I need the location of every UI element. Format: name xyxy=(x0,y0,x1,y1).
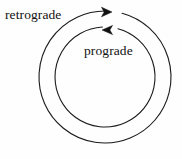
orbit-diagram-figure: retrograde prograde xyxy=(0,0,182,159)
retrograde-label: retrograde xyxy=(5,8,61,22)
prograde-label: prograde xyxy=(84,44,133,58)
arrow-right-icon xyxy=(102,7,113,17)
orbit-diagram-svg xyxy=(0,0,182,159)
arrow-left-icon xyxy=(102,25,113,34)
